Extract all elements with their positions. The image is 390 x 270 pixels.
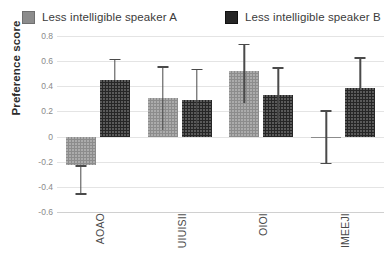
legend-swatch-speaker-b-icon	[225, 11, 238, 24]
legend-item-speaker-a: Less intelligible speaker A	[22, 11, 177, 24]
bar-less-intelligible-speaker-b-imeeji	[345, 88, 375, 137]
error-bar	[359, 57, 360, 87]
x-axis-category-label: UIUISII	[176, 213, 188, 248]
y-axis-title: Preference score	[10, 8, 22, 128]
y-axis-tick-label: -0.2	[38, 157, 53, 167]
y-axis-tick-label: 0	[48, 132, 53, 142]
legend-swatch-speaker-a-icon	[22, 11, 35, 24]
error-bar-cap	[239, 44, 250, 45]
y-axis-tick-label: 0.8	[41, 31, 53, 41]
bar-group	[221, 36, 303, 212]
bar-less-intelligible-speaker-b-aoao	[100, 80, 130, 137]
y-axis-tick-label: 0.2	[41, 106, 53, 116]
error-bar	[196, 69, 197, 128]
plot-area	[57, 36, 384, 212]
error-bar-cap	[321, 163, 332, 164]
legend-label-speaker-b: Less intelligible speaker B	[245, 11, 381, 23]
preference-score-bar-chart: Less intelligible speaker A Less intelli…	[0, 0, 390, 270]
y-axis-tick-label: 0.4	[41, 81, 53, 91]
error-bar	[244, 44, 245, 103]
error-bar-cap	[75, 165, 86, 166]
legend-item-speaker-b: Less intelligible speaker B	[225, 11, 381, 24]
error-bar-cap	[191, 69, 202, 70]
error-bar-cap	[109, 59, 120, 60]
bar-group	[57, 36, 139, 212]
y-axis-tick-label: -0.6	[38, 207, 53, 217]
error-bar-cap	[273, 67, 284, 68]
error-bar-cap	[321, 110, 332, 111]
x-axis-category-labels: AOAOUIUISIIOIOIIMEEJI	[57, 213, 384, 270]
x-axis-category-label: IMEEJI	[339, 213, 351, 248]
error-bar	[278, 67, 279, 122]
error-bar	[80, 165, 81, 193]
error-bar-cap	[355, 57, 366, 58]
bar-less-intelligible-speaker-a-aoao	[66, 137, 96, 166]
error-bar-cap	[75, 193, 86, 194]
y-axis-tick-label: 0.6	[41, 56, 53, 66]
bar-group	[302, 36, 384, 212]
error-bar	[162, 66, 163, 130]
x-axis-category-label: OIOI	[257, 213, 269, 236]
legend-label-speaker-a: Less intelligible speaker A	[42, 11, 177, 23]
error-bar	[114, 59, 115, 80]
y-axis-tick-label: -0.4	[38, 182, 53, 192]
x-axis-category-label: AOAO	[94, 213, 106, 244]
error-bar-cap	[157, 66, 168, 67]
bar-group	[139, 36, 221, 212]
chart-legend: Less intelligible speaker A Less intelli…	[22, 7, 382, 27]
y-axis-tick-labels: 0.80.60.40.20-0.2-0.4-0.6	[30, 36, 53, 212]
error-bar	[325, 110, 326, 163]
